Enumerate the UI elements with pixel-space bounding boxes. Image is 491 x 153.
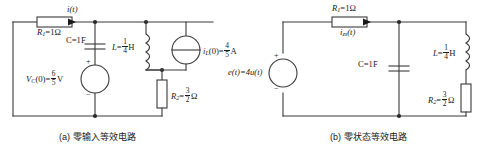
label-capacitor-b: C=1F [358,60,378,69]
label-current-b: izs(t) [340,28,355,38]
circuit-figure: R1=1Ω i(t) C=1F VC(0)=65V + − L=14H iL(0… [0,0,491,153]
label-inductor-a: L=14H [112,38,135,54]
label-r1-b: R1=1Ω [332,4,356,14]
inductor-a-coil [146,34,150,70]
voltage-source-b-plus: + [274,51,279,60]
label-r1-a: R1=1Ω [37,28,61,38]
inductor-b-coil [466,34,470,70]
node-a-bottom-mid [93,114,97,118]
label-inductor-initial-current-a: iL(0)=45A [203,42,237,58]
resistor-r1-b-body [332,17,367,27]
voltage-source-b-minus: − [274,84,279,93]
resistor-r2-a-body [157,80,167,108]
resistor-r2-b-body [461,84,471,112]
label-current-a: i(t) [67,5,78,14]
label-inductor-b: L=14H [433,44,456,60]
resistor-r1-a-body [37,17,72,27]
voltage-source-b-body [269,59,297,87]
label-source-b: e(t)=4u(t) [228,68,262,77]
label-vc-initial-a: VC(0)=65V [26,70,63,86]
label-capacitor-a: C=1F [66,36,86,45]
caption-subfigure-b: (b) 零状态等效电路 [330,130,407,143]
label-r2-a: R2=32Ω [171,87,197,103]
voltage-source-a-plus: + [86,57,91,66]
voltage-source-a-minus: − [86,90,91,99]
caption-subfigure-a: (a) 零输入等效电路 [59,130,136,143]
label-r2-b: R2=32Ω [428,91,454,107]
node-b-bottom-mid [397,114,401,118]
voltage-source-a-body [81,65,109,93]
node-a-top-mid [93,20,97,24]
node-b-top-mid [397,20,401,24]
